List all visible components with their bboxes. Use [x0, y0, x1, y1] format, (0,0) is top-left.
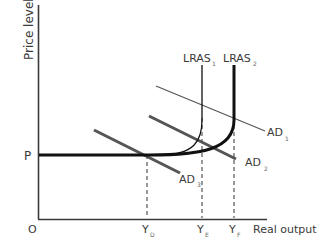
ad2-label-main: AD — [245, 156, 261, 169]
ad-curves — [94, 86, 265, 173]
ad1-label-main: AD — [267, 126, 283, 139]
lras2-curve — [39, 65, 234, 155]
lras1-label: LRAS 1 — [183, 52, 216, 67]
ye-label-main: Y — [196, 223, 204, 236]
lras2-label: LRAS 2 — [223, 52, 257, 67]
lras1-label-sub: 1 — [212, 60, 216, 67]
yf-label-sub: F — [237, 231, 241, 238]
y-axis-label: Price level — [22, 0, 36, 60]
ad-as-diagram: Price level O P LRAS 1 LRAS 2 AD 1 AD 2 … — [0, 0, 328, 243]
lras2-label-sub: 2 — [253, 60, 257, 67]
ad3-curve — [94, 130, 180, 173]
projection-lines — [147, 118, 234, 218]
yd-label-main: Y — [141, 223, 149, 236]
ad3-label-main: AD — [179, 173, 195, 186]
yf-label-main: Y — [228, 223, 236, 236]
lras1-label-main: LRAS — [183, 52, 211, 65]
yf-label: Y F — [228, 223, 241, 238]
yd-label-sub: D — [150, 231, 155, 238]
x-axis-label: Real output — [253, 223, 317, 236]
lras1-curve — [130, 65, 202, 155]
ad1-label-sub: 1 — [285, 135, 289, 142]
ad3-label-sub: 3 — [197, 181, 201, 188]
ye-label: Y E — [196, 223, 209, 238]
ad1-label: AD 1 — [267, 126, 289, 142]
ad2-label-sub: 2 — [264, 165, 268, 172]
ad2-label: AD 2 — [245, 156, 268, 172]
origin-label: O — [28, 223, 37, 236]
yd-label: Y D — [141, 223, 155, 238]
ad3-label: AD 3 — [179, 173, 201, 188]
price-label: P — [24, 149, 31, 163]
ye-label-sub: E — [205, 231, 209, 238]
ad1-curve — [156, 86, 265, 131]
lras2-label-main: LRAS — [223, 52, 251, 65]
